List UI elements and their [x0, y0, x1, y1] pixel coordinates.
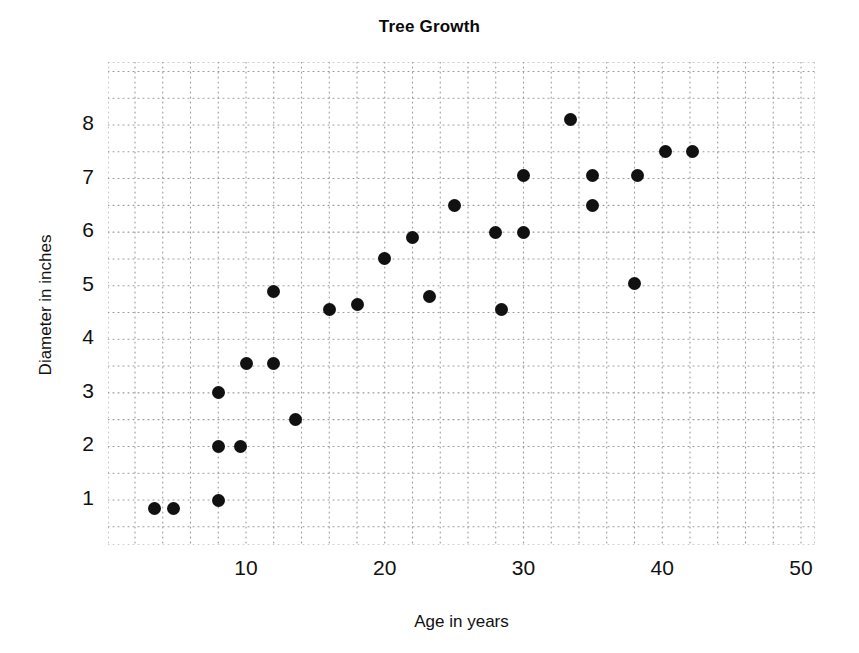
data-point [586, 169, 599, 182]
x-tick-label: 30 [484, 556, 564, 580]
x-tick-label: 40 [622, 556, 702, 580]
data-point [517, 226, 530, 239]
data-point [234, 440, 247, 453]
data-point [406, 231, 419, 244]
data-point [378, 252, 391, 265]
tree-growth-scatter-figure: Tree Growth 1020304050 12345678 Age in y… [0, 0, 859, 653]
y-tick-label: 8 [58, 111, 94, 135]
data-point [564, 113, 577, 126]
data-point [659, 145, 672, 158]
data-point [448, 199, 461, 212]
data-point [517, 169, 530, 182]
x-axis-label: Age in years [108, 612, 815, 632]
y-tick-label: 4 [58, 325, 94, 349]
data-point [423, 290, 436, 303]
data-point [167, 502, 180, 515]
data-point [148, 502, 161, 515]
data-point [267, 357, 280, 370]
data-point [686, 145, 699, 158]
data-point [631, 169, 644, 182]
data-point [323, 303, 336, 316]
data-point [267, 285, 280, 298]
y-tick-label: 1 [58, 486, 94, 510]
y-axis-label: Diameter in inches [36, 175, 56, 435]
y-tick-label: 3 [58, 379, 94, 403]
plot-area [108, 62, 815, 545]
x-tick-label: 10 [206, 556, 286, 580]
y-tick-label: 2 [58, 432, 94, 456]
data-points-layer [108, 62, 815, 545]
data-point [586, 199, 599, 212]
chart-title: Tree Growth [0, 17, 859, 37]
y-tick-label: 7 [58, 165, 94, 189]
data-point [212, 440, 225, 453]
y-tick-label: 5 [58, 272, 94, 296]
data-point [628, 277, 641, 290]
y-tick-label: 6 [58, 218, 94, 242]
data-point [489, 226, 502, 239]
data-point [240, 357, 253, 370]
x-tick-label: 50 [761, 556, 841, 580]
x-tick-label: 20 [345, 556, 425, 580]
data-point [289, 413, 302, 426]
data-point [212, 386, 225, 399]
data-point [212, 494, 225, 507]
data-point [351, 298, 364, 311]
data-point [495, 303, 508, 316]
